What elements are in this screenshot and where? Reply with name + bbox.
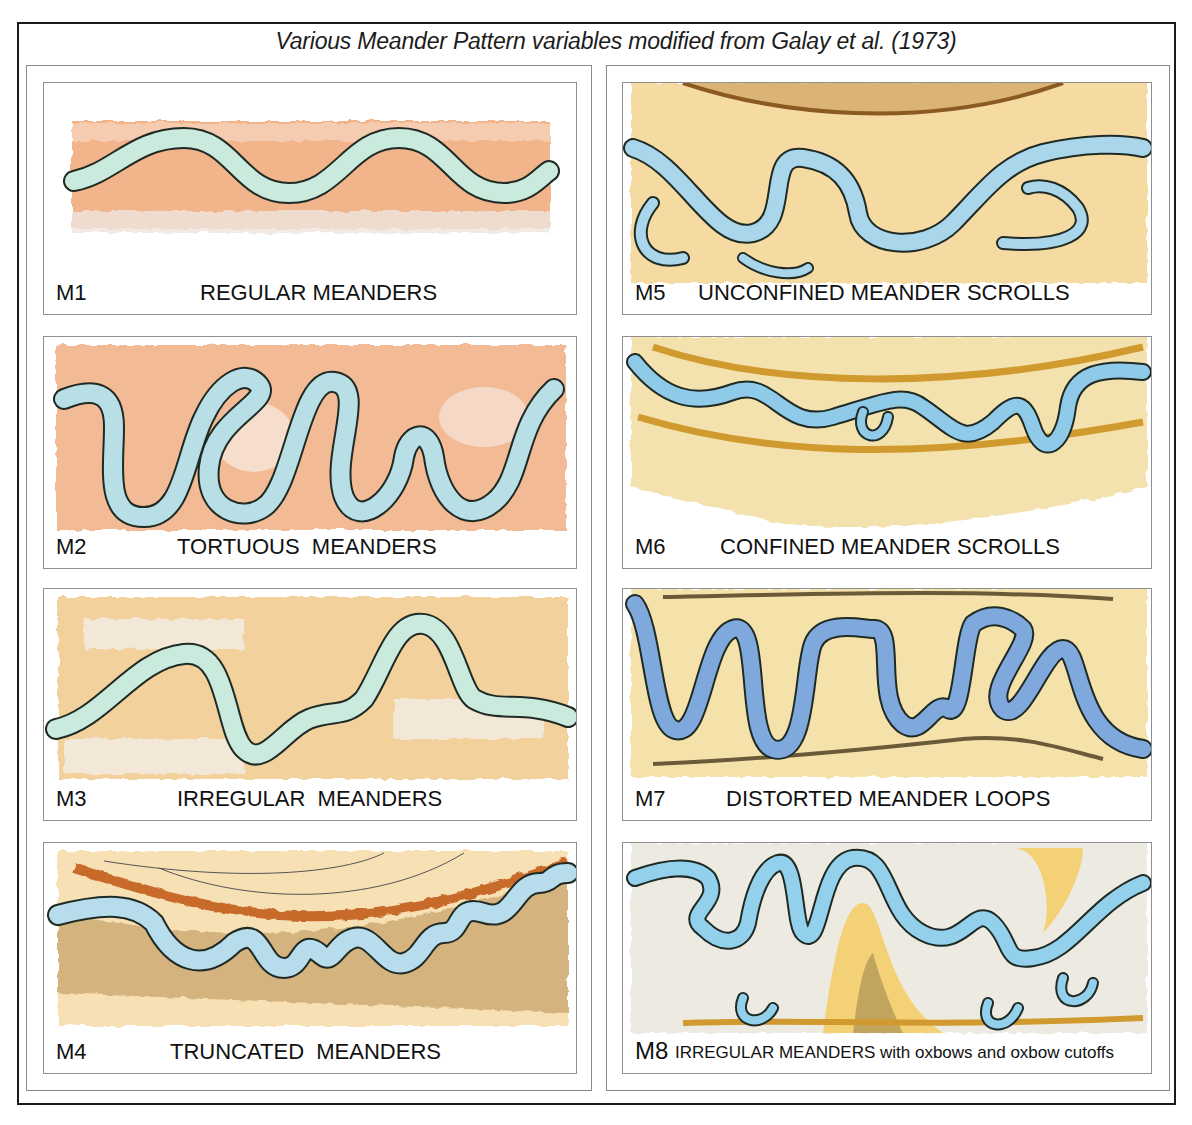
panel-m6-confined-meander-scrolls: M6 CONFINED MEANDER SCROLLS [622,336,1152,569]
figure-title: Various Meander Pattern variables modifi… [0,28,1192,55]
panel-m8-irregular-meanders-oxbows: M8 IRREGULAR MEANDERS with oxbows and ox… [622,842,1152,1074]
panel-m3-irregular-meanders: M3 IRREGULAR MEANDERS [43,588,577,821]
panel-label: TRUNCATED MEANDERS [170,1039,441,1065]
panel-label: UNCONFINED MEANDER SCROLLS [698,280,1070,306]
panel-code: M5 [635,280,666,306]
panel-m4-truncated-meanders: M4 TRUNCATED MEANDERS [43,842,577,1074]
panel-m5-unconfined-meander-scrolls: M5 UNCONFINED MEANDER SCROLLS [622,82,1152,315]
panel-code: M4 [56,1039,87,1065]
panel-label: REGULAR MEANDERS [200,280,437,306]
panel-code: M8 [635,1037,668,1065]
panel-code: M7 [635,786,666,812]
panel-code: M6 [635,534,666,560]
panel-label: TORTUOUS MEANDERS [177,534,437,560]
panel-label-main: IRREGULAR MEANDERS [675,1043,875,1062]
irregular-meanders-oxbows-illustration [623,843,1152,1074]
panel-m1-regular-meanders: M1 REGULAR MEANDERS [43,82,577,315]
panel-m7-distorted-meander-loops: M7 DISTORTED MEANDER LOOPS [622,588,1152,821]
panel-code: M3 [56,786,87,812]
panel-label-suffix: with oxbows and oxbow cutoffs [875,1043,1114,1062]
panel-label: DISTORTED MEANDER LOOPS [726,786,1050,812]
panel-label: CONFINED MEANDER SCROLLS [720,534,1060,560]
panel-m2-tortuous-meanders: M2 TORTUOUS MEANDERS [43,336,577,569]
panel-code: M2 [56,534,87,560]
panel-label: IRREGULAR MEANDERS [177,786,442,812]
panel-label: IRREGULAR MEANDERS with oxbows and oxbow… [675,1043,1114,1063]
panel-code: M1 [56,280,87,306]
